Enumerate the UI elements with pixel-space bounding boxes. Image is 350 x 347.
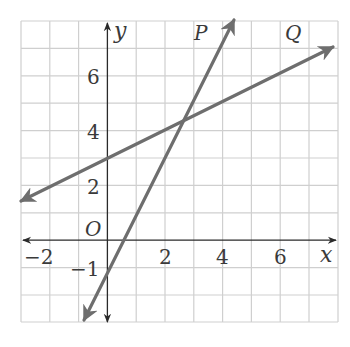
x-tick-6: 6 (274, 245, 287, 269)
y-tick-2: 2 (87, 175, 100, 199)
y-tick-4: 4 (87, 120, 100, 144)
line-p (84, 20, 234, 320)
line-q-label: Q (285, 21, 301, 45)
x-tick-4: 4 (216, 245, 229, 269)
y-tick-neg1: −1 (70, 257, 99, 281)
line-p-label: P (193, 21, 208, 45)
grid (21, 21, 338, 322)
x-tick-neg2: −2 (24, 245, 53, 269)
origin-label: O (85, 217, 101, 241)
coordinate-plane: y x O P Q −2 2 4 6 −1 2 4 6 (0, 0, 350, 347)
x-axis-label: x (320, 242, 333, 267)
x-tick-2: 2 (159, 245, 172, 269)
line-q (21, 47, 333, 201)
y-tick-6: 6 (87, 65, 100, 89)
y-axis-label: y (113, 18, 127, 43)
